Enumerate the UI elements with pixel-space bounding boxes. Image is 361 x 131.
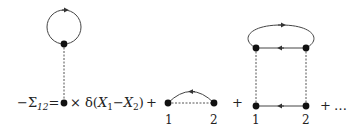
plus-sign: + xyxy=(320,98,331,113)
fermion-arc xyxy=(248,25,314,48)
exchange-diagram: 1 2 xyxy=(165,92,218,128)
vertex-dot xyxy=(211,100,218,107)
vertex-dot xyxy=(61,100,68,107)
vertex-label-2: 2 xyxy=(302,113,310,127)
vertex-dot xyxy=(253,103,260,110)
ellipsis: … xyxy=(334,98,347,113)
fermion-loop xyxy=(47,10,81,44)
vertex-dot xyxy=(303,45,310,52)
vertex-label-2: 2 xyxy=(210,113,218,127)
self-energy-diagram-equation: −Σ12= × δ(X1−X2) + 1 2 + 1 2 + … xyxy=(0,0,361,131)
vertex-label-1: 1 xyxy=(252,113,260,127)
tadpole-diagram xyxy=(47,10,81,106)
delta-term: × δ(X1−X2) xyxy=(70,95,144,112)
vertex-dot xyxy=(303,103,310,110)
plus-sign: + xyxy=(146,95,157,110)
fermion-arc xyxy=(168,92,214,104)
lhs-sigma: −Σ12= xyxy=(17,95,59,112)
plus-sign: + xyxy=(232,95,243,110)
vertex-dot xyxy=(253,45,260,52)
vertex-dot xyxy=(165,100,172,107)
vertex-label-1: 1 xyxy=(165,113,173,127)
vertex-dot xyxy=(61,41,68,48)
box-diagram: 1 2 xyxy=(248,25,314,127)
